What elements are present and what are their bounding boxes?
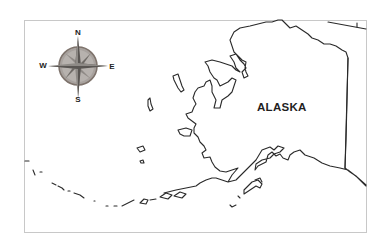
region-label-alaska: ALASKA <box>257 101 307 113</box>
compass-north-label: N <box>75 29 81 37</box>
border-line-east <box>345 58 348 168</box>
island-small <box>148 98 153 111</box>
compass-east-label: E <box>109 63 114 71</box>
island-st-matthew <box>137 146 145 152</box>
compass-south-label: S <box>75 96 80 104</box>
alaska-outline-map <box>0 0 387 241</box>
kodiak-island <box>244 180 262 194</box>
island-nunivak <box>178 128 192 136</box>
island-st-lawrence <box>173 74 184 92</box>
border-line-north <box>328 22 366 29</box>
compass-west-label: W <box>39 62 47 70</box>
compass-rose-icon <box>48 36 108 98</box>
